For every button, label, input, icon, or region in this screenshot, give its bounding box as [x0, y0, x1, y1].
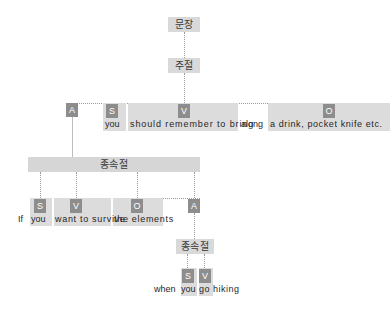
connector-sub1-to-subject [40, 172, 41, 198]
connector-sub1-to-adverbial [194, 172, 195, 198]
word-sub1-conjunction: If [18, 214, 23, 225]
badge-sub1-verb: V [70, 199, 82, 213]
word-sub1-subject: you [31, 214, 46, 225]
connector-sub1-to-object [137, 172, 138, 198]
node-sub-clause-2: 종속절 [176, 239, 214, 254]
badge-main-object: O [323, 104, 335, 118]
badge-main-subject: S [106, 104, 118, 118]
connector-sentence-to-main [184, 32, 185, 58]
word-main-particle: along [241, 119, 263, 130]
connector-main-to-verb [184, 73, 185, 103]
connector-sub2-to-verb [204, 254, 205, 268]
badge-main-adverbial: A [66, 103, 78, 117]
word-sub2-conjunction: when [154, 284, 176, 295]
word-sub1-object: the elements [114, 214, 174, 225]
word-sub2-subject: you [181, 284, 196, 295]
node-main-clause: 주절 [168, 58, 200, 73]
connector-adverbial-to-subclause-1 [72, 117, 73, 157]
badge-sub1-adverbial: A [188, 199, 200, 213]
word-main-verb: should remember to bring [130, 119, 254, 130]
badge-sub1-subject: S [34, 199, 46, 213]
badge-main-verb: V [178, 104, 190, 118]
word-sub2-verb: go hiking [199, 284, 240, 295]
badge-sub1-object: O [131, 199, 143, 213]
word-main-subject: you [105, 119, 120, 130]
connector-adverbial2-to-subclause-2 [194, 213, 195, 239]
node-sentence: 문장 [168, 17, 200, 32]
badge-sub2-subject: S [182, 269, 194, 283]
node-sub-clause-1: 종속절 [28, 157, 200, 172]
connector-sub1-to-verb [76, 172, 77, 198]
sentence-diagram: 문장 주절 A S V O you should remember to bri… [0, 0, 392, 311]
word-main-object: a drink, pocket knife etc. [270, 119, 383, 130]
connector-sub2-to-subject [187, 254, 188, 268]
badge-sub2-verb: V [199, 269, 211, 283]
